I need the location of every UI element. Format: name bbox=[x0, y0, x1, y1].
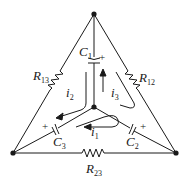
resistor-r13 bbox=[48, 71, 63, 90]
label-i3: i3 bbox=[111, 85, 119, 102]
label-r12: R12 bbox=[138, 70, 155, 87]
label-c3: C3 bbox=[53, 134, 66, 151]
node-bottom-right bbox=[173, 150, 178, 155]
label-c2: C2 bbox=[126, 134, 139, 151]
wire-bottom bbox=[13, 149, 176, 157]
wire-top-to-bottom-left bbox=[13, 14, 94, 153]
node-top bbox=[91, 11, 96, 16]
resistor-r23 bbox=[82, 149, 104, 157]
label-r13: R13 bbox=[32, 68, 49, 85]
polarity-c1: + bbox=[99, 51, 105, 63]
label-i2: i2 bbox=[66, 85, 74, 102]
capacitor-c3 bbox=[55, 124, 59, 134]
label-r23: R23 bbox=[85, 161, 102, 178]
circuit-diagram: C1 + R13 R12 R23 C3 + C2 + i2 i3 i1 bbox=[0, 0, 190, 179]
polarity-c3: + bbox=[42, 120, 48, 132]
label-c1: C1 bbox=[79, 44, 92, 61]
resistor-r12 bbox=[125, 71, 140, 90]
node-bottom-left bbox=[10, 150, 15, 155]
capacitor-c2 bbox=[129, 124, 133, 134]
node-center bbox=[91, 104, 96, 109]
polarity-c2: + bbox=[140, 120, 146, 132]
wire-top-to-bottom-right bbox=[94, 14, 176, 153]
